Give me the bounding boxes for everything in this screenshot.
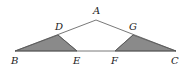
label-a: A xyxy=(92,5,100,16)
label-e: E xyxy=(72,55,81,66)
label-b: B xyxy=(10,55,18,66)
label-g: G xyxy=(129,21,137,32)
label-d: D xyxy=(54,21,63,32)
label-f: F xyxy=(110,55,119,66)
geometry-diagram: A D G B E F C xyxy=(0,0,188,84)
label-c: C xyxy=(171,55,179,66)
